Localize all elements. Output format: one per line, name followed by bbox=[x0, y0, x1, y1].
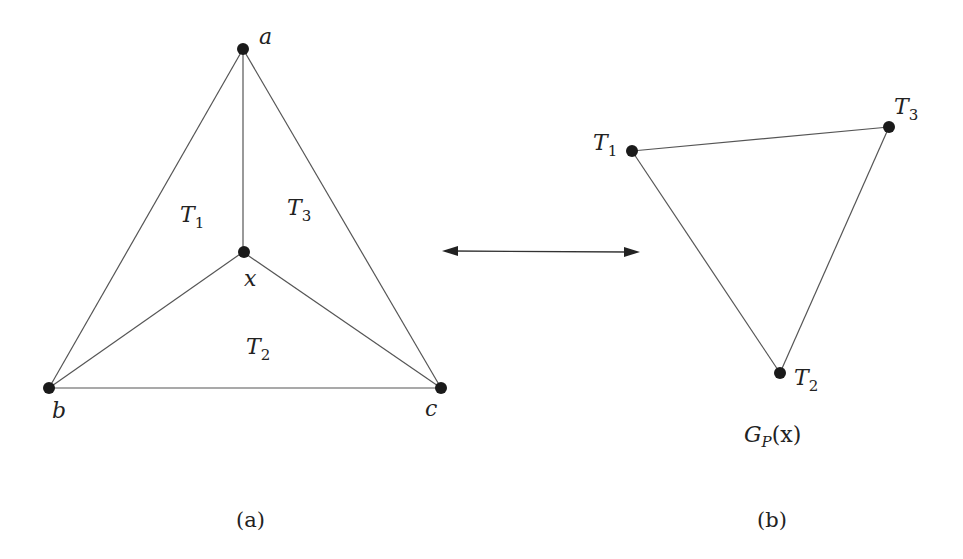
node-t2 bbox=[774, 367, 786, 379]
edge-a-c bbox=[243, 49, 441, 388]
arrow-head-left bbox=[442, 246, 458, 256]
caption-b: (b) bbox=[757, 508, 787, 532]
node-label-t1: T1 bbox=[593, 130, 617, 160]
edge-c-x bbox=[243, 252, 441, 388]
edge-a-b bbox=[49, 49, 243, 388]
region-label-t3: T3 bbox=[287, 195, 311, 225]
edge-t1-t2 bbox=[632, 151, 780, 373]
node-label-t2: T2 bbox=[794, 365, 818, 395]
node-t3 bbox=[883, 121, 895, 133]
node-t1 bbox=[626, 145, 638, 157]
vertex-a bbox=[237, 43, 249, 55]
label-a: a bbox=[259, 24, 272, 49]
panel-b-graph: T1 T3 T2 GP(x) (b) bbox=[593, 94, 918, 532]
region-label-t1: T1 bbox=[180, 202, 204, 232]
panel-a: a x b c T1 T3 T2 (a) bbox=[43, 24, 447, 532]
vertex-c bbox=[435, 382, 447, 394]
correspondence-arrow bbox=[442, 246, 640, 257]
arrow-shaft bbox=[452, 251, 628, 252]
graph-label-gp-x: GP(x) bbox=[744, 422, 801, 451]
edge-t2-t3 bbox=[780, 127, 889, 373]
label-x: x bbox=[244, 266, 257, 291]
node-label-t3: T3 bbox=[894, 94, 918, 124]
vertex-b bbox=[43, 382, 55, 394]
region-label-t2: T2 bbox=[246, 334, 270, 364]
diagram-canvas: a x b c T1 T3 T2 (a) T1 T3 bbox=[0, 0, 963, 559]
caption-a: (a) bbox=[236, 508, 265, 532]
arrow-head-right bbox=[624, 247, 640, 257]
edge-b-x bbox=[49, 252, 243, 388]
vertex-x bbox=[238, 246, 250, 258]
edge-t1-t3 bbox=[632, 127, 889, 151]
label-b: b bbox=[52, 398, 66, 423]
label-c: c bbox=[425, 396, 437, 421]
